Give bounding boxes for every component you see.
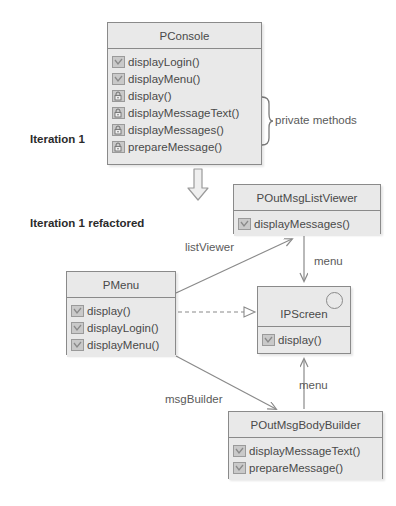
class-name-poutmsglistviewer: POutMsgListViewer — [234, 185, 380, 211]
class-members-pconsole: displayLogin() displayMenu() — [108, 49, 261, 159]
public-method-icon — [112, 73, 125, 85]
member-row[interactable]: displayMessageText() — [112, 104, 258, 121]
public-method-icon — [262, 334, 275, 346]
public-method-icon — [71, 339, 84, 351]
member-label: display() — [278, 334, 321, 346]
interface-circle-icon — [326, 292, 343, 309]
member-row[interactable]: prepareMessage() — [233, 459, 379, 476]
private-method-lock-icon — [112, 90, 125, 102]
edge-label-menu-listviewer: menu — [314, 255, 343, 267]
class-members-poutmsgbodybuilder: displayMessageText() prepareMessage() — [229, 438, 382, 480]
public-method-icon — [71, 322, 84, 334]
edge-label-menu-bodybuilder: menu — [299, 379, 328, 391]
section-label-iteration-1-refactored: Iteration 1 refactored — [30, 217, 144, 229]
uml-class-diagram: Iteration 1 Iteration 1 refactored priva… — [0, 0, 396, 506]
member-row[interactable]: displayLogin() — [71, 319, 172, 336]
public-method-icon — [233, 462, 246, 474]
class-box-pconsole[interactable]: PConsole displayLogin() displayMenu() — [107, 22, 262, 165]
private-method-lock-icon — [112, 107, 125, 119]
class-box-poutmsgbodybuilder[interactable]: POutMsgBodyBuilder displayMessageText() … — [228, 411, 383, 479]
public-method-icon — [71, 305, 84, 317]
edge-label-listviewer: listViewer — [185, 241, 234, 253]
member-row[interactable]: displayLogin() — [112, 53, 258, 70]
member-label: displayLogin() — [87, 322, 159, 334]
member-row[interactable]: display() — [71, 302, 172, 319]
member-label: displayMessages() — [254, 218, 350, 230]
member-label: prepareMessage() — [249, 462, 343, 474]
class-name-pconsole: PConsole — [108, 23, 261, 49]
class-name-ipscreen: IPScreen — [258, 287, 350, 327]
member-row[interactable]: displayMessageText() — [233, 442, 379, 459]
class-members-poutmsglistviewer: displayMessages() — [234, 211, 380, 236]
member-label: display() — [87, 305, 130, 317]
member-row[interactable]: display() — [112, 87, 258, 104]
edge-label-msgbuilder: msgBuilder — [165, 393, 223, 405]
member-row[interactable]: prepareMessage() — [112, 138, 258, 155]
member-label: displayMessages() — [128, 124, 224, 136]
public-method-icon — [233, 445, 246, 457]
member-row[interactable]: displayMenu() — [71, 336, 172, 353]
private-methods-label: private methods — [275, 114, 357, 126]
public-method-icon — [112, 56, 125, 68]
section-label-iteration-1: Iteration 1 — [30, 133, 85, 145]
class-name-poutmsgbodybuilder: POutMsgBodyBuilder — [229, 412, 382, 438]
member-label: displayLogin() — [128, 56, 200, 68]
private-methods-brace — [262, 97, 273, 145]
private-method-lock-icon — [112, 141, 125, 153]
class-members-ipscreen: display() — [258, 327, 350, 352]
class-name-pmenu: PMenu — [67, 272, 175, 298]
public-method-icon — [238, 218, 251, 230]
member-row[interactable]: displayMenu() — [112, 70, 258, 87]
class-name-text: IPScreen — [280, 308, 327, 320]
class-box-poutmsglistviewer[interactable]: POutMsgListViewer displayMessages() — [233, 184, 381, 234]
member-label: display() — [128, 90, 171, 102]
class-box-pmenu[interactable]: PMenu display() displayLogin() — [66, 271, 176, 355]
refactor-block-arrow — [186, 168, 210, 202]
class-box-ipscreen[interactable]: IPScreen display() — [257, 286, 351, 354]
member-row[interactable]: displayMessages() — [238, 215, 377, 232]
member-row[interactable]: displayMessages() — [112, 121, 258, 138]
member-label: displayMessageText() — [128, 107, 239, 119]
member-label: displayMenu() — [128, 73, 200, 85]
private-method-lock-icon — [112, 124, 125, 136]
class-members-pmenu: display() displayLogin() displayMenu() — [67, 298, 175, 357]
member-label: displayMenu() — [87, 339, 159, 351]
member-row[interactable]: display() — [262, 331, 347, 348]
member-label: displayMessageText() — [249, 445, 360, 457]
member-label: prepareMessage() — [128, 141, 222, 153]
